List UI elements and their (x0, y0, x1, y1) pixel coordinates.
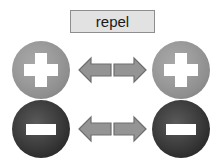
charge-negative-right (152, 100, 210, 158)
plus-icon (24, 53, 58, 87)
charge-positive-left (12, 41, 70, 99)
repel-label-box: repel (70, 10, 155, 33)
arrow-right-icon-bottom (113, 112, 147, 146)
repel-label-text: repel (96, 14, 129, 29)
arrow-left-icon-top (78, 53, 112, 87)
charge-positive-right (152, 41, 210, 99)
arrow-left-icon-bottom (78, 112, 112, 146)
minus-icon (26, 124, 56, 135)
charge-negative-left (12, 100, 70, 158)
minus-icon (166, 124, 196, 135)
arrow-right-icon-top (113, 53, 147, 87)
plus-icon (164, 53, 198, 87)
repel-diagram: repel (0, 0, 221, 163)
